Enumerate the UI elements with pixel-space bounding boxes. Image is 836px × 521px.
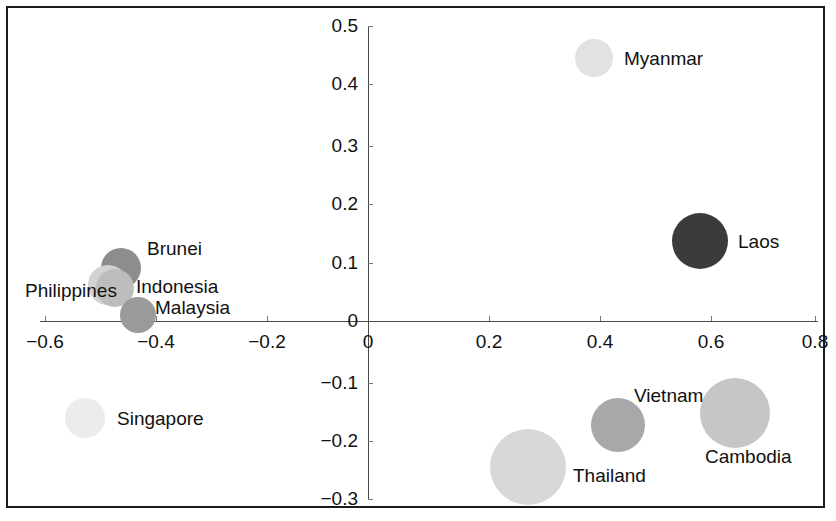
x-tick-label: −0.4 [137,331,175,353]
y-tick-mark [368,84,373,85]
y-tick-mark [368,146,373,147]
bubble-laos[interactable] [672,213,728,269]
y-tick-mark [368,26,373,27]
bubble-singapore[interactable] [65,398,105,438]
bubble-label-malaysia: Malaysia [155,297,230,319]
y-tick-label: 0 [302,310,358,332]
x-tick-mark [45,316,46,321]
y-tick-label: 0.4 [302,73,358,95]
bubble-label-brunei: Brunei [147,238,202,260]
y-tick-mark [368,204,373,205]
y-tick-label: 0.3 [302,135,358,157]
x-tick-mark [489,316,490,321]
bubble-malaysia[interactable] [120,297,156,333]
x-tick-label: 0.6 [698,331,724,353]
y-tick-mark [368,383,373,384]
x-tick-mark [267,316,268,321]
bubble-label-thailand: Thailand [573,465,646,487]
bubble-label-philippines: Philippines [25,280,117,302]
y-tick-label: 0.5 [302,15,358,37]
bubble-label-myanmar: Myanmar [624,48,703,70]
bubble-label-indonesia: Indonesia [136,276,218,298]
y-tick-label: 0.1 [302,252,358,274]
y-tick-label: −0.1 [302,372,358,394]
x-tick-label: 0.8 [802,331,828,353]
x-tick-label: −0.2 [248,331,286,353]
x-tick-mark [815,316,816,321]
x-axis-line [40,321,818,322]
x-tick-mark [711,316,712,321]
bubble-thailand[interactable] [490,429,566,505]
x-tick-mark [600,316,601,321]
x-tick-label: 0.2 [476,331,502,353]
figure-container: −0.6−0.4−0.200.20.40.60.8 0.50.40.30.20.… [0,0,836,521]
y-tick-label: 0.2 [302,193,358,215]
x-tick-label: 0 [363,331,374,353]
y-tick-label: −0.3 [302,488,358,510]
scatter-plot-area: −0.6−0.4−0.200.20.40.60.8 0.50.40.30.20.… [0,0,836,521]
y-tick-mark [368,499,373,500]
y-tick-mark [368,441,373,442]
bubble-label-cambodia: Cambodia [705,446,792,468]
x-tick-label: 0.4 [587,331,613,353]
x-tick-label: −0.6 [26,331,64,353]
bubble-cambodia[interactable] [700,378,770,448]
bubble-label-laos: Laos [738,231,779,253]
y-tick-mark [368,263,373,264]
bubble-label-vietnam: Vietnam [634,385,703,407]
bubble-myanmar[interactable] [575,39,613,77]
y-tick-label: −0.2 [302,430,358,452]
bubble-label-singapore: Singapore [117,408,204,430]
